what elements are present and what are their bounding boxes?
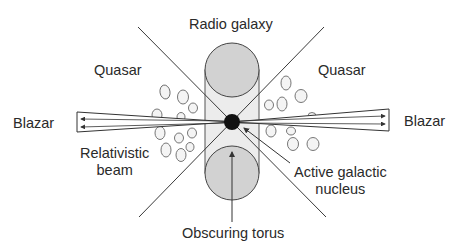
label-blazar-right: Blazar xyxy=(404,113,445,130)
active-galactic-nucleus xyxy=(224,114,240,130)
label-agn-line1: Active galactic xyxy=(294,164,387,181)
label-agn-line2: nucleus xyxy=(294,181,387,198)
label-obscuring-torus: Obscuring torus xyxy=(182,225,284,242)
label-quasar-left: Quasar xyxy=(94,62,142,79)
label-radio-galaxy: Radio galaxy xyxy=(189,16,273,33)
agn-diagram xyxy=(0,0,466,245)
label-active-galactic-nucleus: Active galactic nucleus xyxy=(294,164,387,198)
clouds-right xyxy=(265,76,320,151)
torus-top-lobe xyxy=(205,43,259,97)
label-relativistic-beam-line2: beam xyxy=(80,162,149,179)
label-blazar-left: Blazar xyxy=(13,115,54,132)
label-quasar-right: Quasar xyxy=(318,62,366,79)
label-relativistic-beam: Relativistic beam xyxy=(80,145,149,179)
label-relativistic-beam-line1: Relativistic xyxy=(80,145,149,162)
